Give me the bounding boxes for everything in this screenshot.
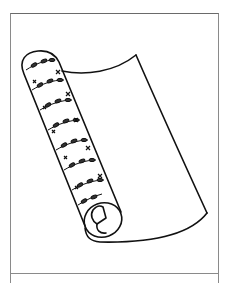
roll-outline	[22, 51, 121, 226]
sheet-right-edge	[136, 55, 207, 213]
star-flowers	[33, 70, 102, 189]
wallpaper-roll-illustration	[0, 0, 239, 283]
roll-inner-curl	[92, 206, 106, 224]
sheet-top-edge	[62, 55, 136, 73]
vine-pattern	[26, 58, 104, 205]
